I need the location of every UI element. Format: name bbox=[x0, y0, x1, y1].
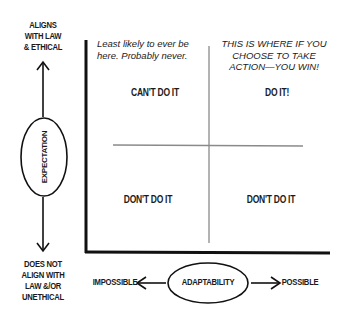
y-bottom-line-3: LAW &/OR bbox=[18, 281, 69, 292]
y-bottom-line-2: ALIGN WITH bbox=[18, 270, 69, 281]
quadrant-bottom-left-label: DON'T DO IT bbox=[110, 194, 187, 205]
expectation-label: EXPECTATION bbox=[40, 131, 49, 183]
dont-do-it-left-text: DON'T DO IT bbox=[124, 194, 172, 205]
y-top-line-3: & ETHICAL bbox=[21, 42, 65, 53]
top-right-note: THIS IS WHERE IF YOU CHOOSE TO TAKE ACTI… bbox=[212, 38, 336, 73]
top-right-note-line-2: CHOOSE TO TAKE bbox=[212, 50, 336, 62]
y-top-line-2: WITH LAW bbox=[21, 31, 65, 42]
y-axis-bottom-label: DOES NOT ALIGN WITH LAW &/OR UNETHICAL bbox=[18, 259, 69, 303]
expectation-text: EXPECTATION bbox=[40, 131, 49, 183]
x-axis-left-label: IMPOSSIBLE bbox=[85, 277, 138, 288]
arrow-up-icon bbox=[37, 62, 49, 117]
y-bottom-line-1: DOES NOT bbox=[18, 259, 69, 270]
top-right-note-line-3: ACTION—YOU WIN! bbox=[212, 61, 336, 73]
quadrant-top-right-label: DO IT! bbox=[239, 87, 316, 98]
y-bottom-line-4: UNETHICAL bbox=[18, 292, 69, 303]
top-left-note: Least likely to ever be here. Probably n… bbox=[97, 38, 207, 61]
top-left-note-line-1: Least likely to ever be bbox=[97, 38, 207, 50]
dont-do-it-right-text: DON'T DO IT bbox=[247, 194, 295, 205]
cant-do-it-text: CAN'T DO IT bbox=[131, 87, 179, 98]
y-top-line-1: ALIGNS bbox=[21, 20, 65, 31]
top-right-note-line-1: THIS IS WHERE IF YOU bbox=[212, 38, 336, 50]
quadrant-top-left-label: CAN'T DO IT bbox=[117, 87, 194, 98]
y-axis-top-label: ALIGNS WITH LAW & ETHICAL bbox=[21, 20, 65, 53]
adaptability-label: ADAPTABILITY bbox=[176, 277, 241, 288]
grid-horizontal-line bbox=[113, 145, 303, 146]
arrow-right-icon bbox=[251, 277, 280, 289]
arrow-left-icon bbox=[137, 277, 166, 289]
possible-text: POSSIBLE bbox=[282, 277, 319, 287]
do-it-text: DO IT! bbox=[265, 87, 289, 98]
x-axis-right-label: POSSIBLE bbox=[282, 277, 325, 288]
quadrant-bottom-right-label: DON'T DO IT bbox=[233, 194, 310, 205]
arrow-down-icon bbox=[37, 197, 49, 251]
top-left-note-line-2: here. Probably never. bbox=[97, 50, 207, 62]
adaptability-text: ADAPTABILITY bbox=[182, 277, 234, 287]
x-axis-line bbox=[85, 252, 330, 253]
impossible-text: IMPOSSIBLE bbox=[93, 277, 138, 287]
